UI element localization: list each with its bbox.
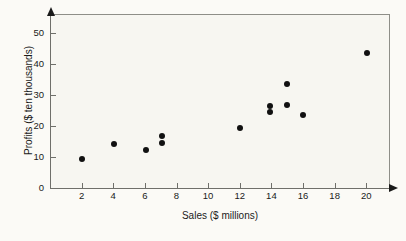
data-point [267,103,273,109]
x-axis-label: Sales ($ millions) [50,210,390,221]
x-tick-label: 12 [228,190,252,201]
data-point [284,102,290,108]
x-tick-label: 20 [354,190,378,201]
data-point [267,109,273,115]
data-point [159,133,165,139]
x-tick-label: 10 [196,190,220,201]
data-point [159,140,165,146]
x-tick-label: 18 [323,190,347,201]
plot-data-area [50,14,390,188]
data-point [237,125,243,131]
data-point [300,112,306,118]
y-tick [51,188,56,189]
x-tick-label: 16 [291,190,315,201]
x-tick-label: 4 [101,190,125,201]
x-tick-label: 14 [259,190,283,201]
data-point [111,141,117,147]
x-axis-line [50,188,391,189]
data-point [284,81,290,87]
x-tick-label: 6 [133,190,157,201]
x-axis-arrow-icon [389,184,398,192]
y-axis-label: Profits ($ ten thousands) [23,11,34,191]
data-point [143,147,149,153]
x-tick-label: 8 [165,190,189,201]
scatter-plot-figure: 2468101214161820 01020304050 Sales ($ mi… [0,0,406,241]
data-point [79,156,85,162]
x-tick-label: 2 [70,190,94,201]
data-point [364,50,370,56]
